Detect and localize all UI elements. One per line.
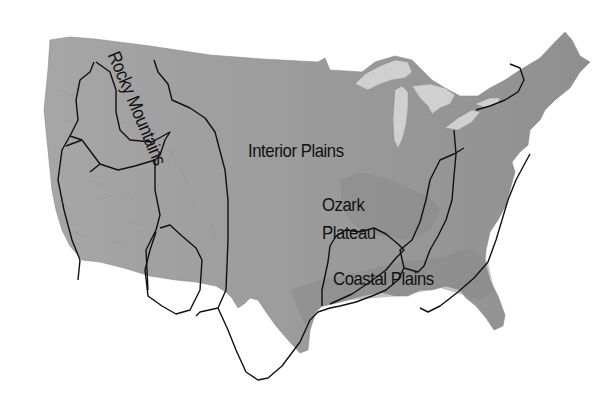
label-ozark-line2: Plateau [322, 219, 376, 247]
label-interior-plains: Interior Plains [248, 140, 344, 162]
label-ozark-line1: Ozark [322, 191, 376, 219]
label-ozark-plateau: Ozark Plateau [322, 191, 376, 247]
label-coastal-plains: Coastal Plains [333, 268, 434, 290]
us-physical-regions-map [0, 0, 612, 404]
